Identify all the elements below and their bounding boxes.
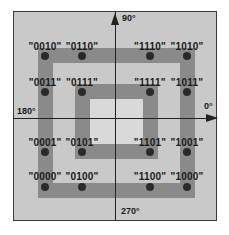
constellation-point [78,52,86,60]
constellation-point [146,148,154,156]
point-label: "0010" [29,41,62,52]
point-label: "1000" [171,171,204,182]
point-label: "1101" [134,137,166,148]
constellation-point [78,88,86,96]
point-label: "0001" [29,137,62,148]
constellation-point [146,183,154,191]
vertical-axis [115,12,116,221]
constellation-point [183,148,191,156]
constellation-point [183,183,191,191]
constellation-point [78,183,86,191]
arrow-right-icon [206,114,218,122]
constellation-point [183,52,191,60]
constellation-point [146,52,154,60]
constellation-point [78,148,86,156]
constellation-point [41,183,49,191]
constellation-point [146,88,154,96]
angle-label-270: 270° [121,206,140,216]
point-label: "0101" [66,137,99,148]
constellation-frame: 90° 180° 0° 270° "0010" "0110" "1110" "1… [13,11,217,221]
point-label: "1010" [171,41,204,52]
point-label: "1011" [171,77,203,88]
arrow-up-icon [111,13,119,25]
horizontal-axis [14,118,217,119]
point-label: "1100" [134,171,166,182]
constellation-point [41,52,49,60]
point-label: "1001" [171,137,204,148]
point-label: "0110" [66,41,98,52]
constellation-point [41,88,49,96]
point-label: "1110" [134,41,166,52]
point-label: "0000" [29,171,62,182]
point-label: "0111" [66,77,98,88]
angle-label-90: 90° [122,13,136,23]
constellation-point [41,148,49,156]
angle-label-0: 0° [204,101,213,111]
constellation-point [183,88,191,96]
angle-label-180: 180° [17,106,36,116]
point-label: "1111" [134,77,165,88]
point-label: "0011" [29,77,61,88]
point-label: "0100" [66,171,99,182]
